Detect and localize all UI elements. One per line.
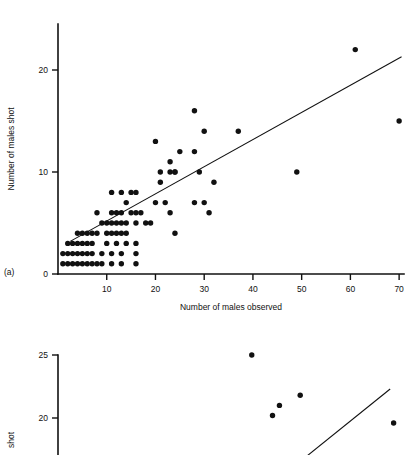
data-point [124,241,129,246]
data-point [99,251,104,256]
y-axis-title: Number of males shot [6,107,16,191]
data-point [143,220,148,225]
data-point [80,231,85,236]
y-tick-label: 20 [39,413,49,423]
data-point [89,241,94,246]
y-tick-label: 10 [39,167,49,177]
x-tick-label: 20 [151,284,161,294]
data-point [148,220,153,225]
figure-container: 0102010203040506070Number of males obser… [0,0,410,455]
data-point [94,210,99,215]
data-point [104,241,109,246]
data-point [80,261,85,266]
data-point [109,251,114,256]
data-point [197,169,202,174]
data-point [75,251,80,256]
data-point [89,251,94,256]
y-tick-label: 0 [43,269,48,279]
data-point [133,220,138,225]
panel-b: 152025shot [0,330,410,455]
data-point [124,231,129,236]
data-point [163,200,168,205]
data-point [133,190,138,195]
x-tick-label: 60 [346,284,356,294]
data-point [236,129,241,134]
data-point [109,210,114,215]
data-point [85,251,90,256]
data-point [109,220,114,225]
data-point [192,108,197,113]
data-point [249,352,254,357]
data-point [124,220,129,225]
data-point [167,169,172,174]
data-point [119,210,124,215]
data-point [201,129,206,134]
data-point [294,169,299,174]
data-point [153,200,158,205]
x-tick-label: 50 [297,284,307,294]
data-point [153,139,158,144]
y-tick-label: 20 [39,65,49,75]
data-point [119,231,124,236]
data-point [85,231,90,236]
data-point [119,261,124,266]
data-point [80,251,85,256]
data-point [89,261,94,266]
data-point [65,261,70,266]
data-point [133,261,138,266]
data-point [104,231,109,236]
data-point [158,180,163,185]
data-point [60,261,65,266]
data-point [75,261,80,266]
data-point [65,241,70,246]
data-point [133,210,138,215]
data-point [177,149,182,154]
x-axis-title: Number of males observed [180,302,282,312]
data-point [128,210,133,215]
panel-a-tag: (a) [4,267,14,277]
data-point [75,231,80,236]
y-axis-title-partial: shot [6,431,16,448]
data-point [75,241,80,246]
data-point [65,251,70,256]
x-tick-label: 10 [102,284,112,294]
data-point [128,190,133,195]
data-point [119,190,124,195]
data-point [192,149,197,154]
data-point [298,393,303,398]
data-point [391,420,396,425]
y-tick-label: 25 [39,350,49,360]
data-point [114,210,119,215]
data-point [172,169,177,174]
data-point [104,220,109,225]
data-point [99,261,104,266]
data-point [158,169,163,174]
data-point [109,261,114,266]
panel-b-plot: 152025shot [0,330,410,455]
data-point [353,47,358,52]
data-point [124,200,129,205]
data-point [167,210,172,215]
data-point [109,231,114,236]
data-point [99,220,104,225]
data-point [70,241,75,246]
data-point [85,261,90,266]
data-point [94,231,99,236]
panel-a: 0102010203040506070Number of males obser… [0,0,410,330]
x-tick-label: 40 [248,284,258,294]
panel-a-plot: 0102010203040506070Number of males obser… [0,0,410,330]
data-point [167,159,172,164]
data-point [114,220,119,225]
data-point [119,251,124,256]
data-point [396,118,401,123]
data-point [114,231,119,236]
data-point [119,220,124,225]
data-point [60,251,65,256]
regression-line [259,389,390,455]
data-point [133,251,138,256]
data-point [114,241,119,246]
data-point [89,231,94,236]
data-point [201,200,206,205]
data-point [70,261,75,266]
x-tick-label: 30 [199,284,209,294]
